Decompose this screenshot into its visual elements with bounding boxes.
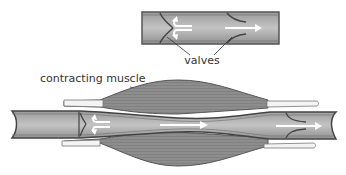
upper-right-tendon (267, 101, 319, 107)
upper-muscle (64, 80, 319, 114)
bottom-assembly: contracting muscle (12, 72, 336, 166)
contracting-muscle-label: contracting muscle (40, 72, 146, 85)
lower-right-tendon (264, 143, 316, 148)
upper-left-tendon (64, 100, 103, 107)
vein-valve-diagram: valves contracting muscle (0, 0, 346, 175)
valves-label: valves (184, 54, 220, 67)
lower-left-tendon (62, 140, 100, 146)
top-vein-segment: valves (142, 12, 279, 67)
